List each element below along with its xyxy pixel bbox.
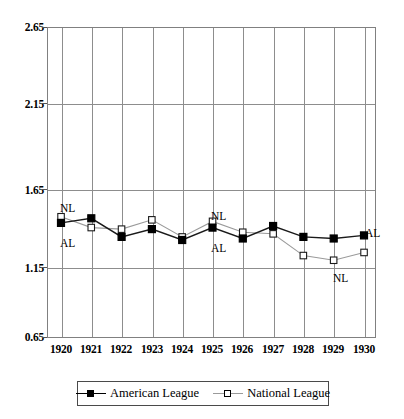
gridline-x-1925 (213, 28, 214, 337)
legend-entry-national-league: National League (213, 386, 330, 401)
y-axis-tick-0.65: 0.65 (0, 331, 44, 343)
legend-label-american-league: American League (110, 386, 199, 401)
y-tick-mark-1.15 (42, 267, 47, 268)
y-tick-mark-1.65 (42, 189, 47, 190)
gridline-x-1921 (92, 28, 93, 337)
y-axis-tick-1.15: 1.15 (0, 262, 44, 274)
y-axis-tick-1.65: 1.65 (0, 184, 44, 196)
y-axis-tick-2.65: 2.65 (0, 21, 44, 33)
annotation-al-1930: AL (365, 228, 380, 240)
gridline-y-1.15 (48, 268, 375, 269)
annotation-nl-1929: NL (333, 273, 348, 285)
legend-entry-american-league: American League (76, 386, 199, 401)
y-tick-mark-0.65 (42, 337, 47, 338)
gridline-x-1926 (243, 28, 244, 337)
y-tick-mark-2.15 (42, 103, 47, 104)
legend-label-national-league: National League (247, 386, 330, 401)
gridline-x-1920 (62, 28, 63, 337)
gridline-x-1923 (153, 28, 154, 337)
plot-area (47, 27, 376, 338)
legend-swatch-filled-square-icon (76, 388, 106, 399)
gridline-y-2.15 (48, 104, 375, 105)
line-chart-figure: 2.65 2.15 1.65 1.15 0.65 1920 1921 1922 … (0, 0, 404, 419)
y-axis-tick-2.15: 2.15 (0, 98, 44, 110)
x-axis-tick-1930: 1930 (344, 343, 384, 355)
gridline-x-1928 (304, 28, 305, 337)
y-tick-mark-2.65 (42, 27, 47, 28)
gridline-y-1.65 (48, 190, 375, 191)
annotation-al-1925: AL (211, 243, 226, 255)
gridline-x-1927 (274, 28, 275, 337)
gridline-x-1929 (334, 28, 335, 337)
chart-legend: American League National League (77, 381, 329, 406)
annotation-nl-1920: NL (60, 203, 75, 215)
annotation-nl-1925: NL (211, 211, 226, 223)
legend-swatch-open-square-icon (213, 388, 243, 399)
gridline-x-1930 (365, 28, 366, 337)
gridline-x-1922 (122, 28, 123, 337)
gridline-x-1924 (183, 28, 184, 337)
annotation-al-1920: AL (60, 238, 75, 250)
